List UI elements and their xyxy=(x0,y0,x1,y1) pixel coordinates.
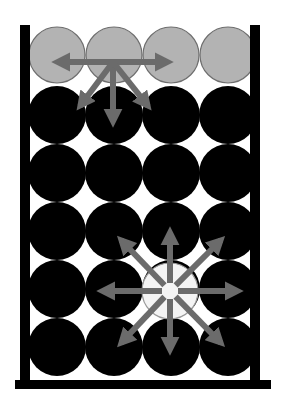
bulk-particle xyxy=(142,86,200,144)
bulk-particle xyxy=(28,144,86,202)
surface-particle xyxy=(29,27,85,83)
surface-particles xyxy=(29,27,256,83)
right-wall xyxy=(250,25,260,389)
bulk-particle xyxy=(85,144,143,202)
bulk-particles xyxy=(28,86,257,376)
left-wall xyxy=(20,25,30,389)
particle-container-diagram xyxy=(0,0,283,414)
floor xyxy=(15,380,271,389)
bulk-particle xyxy=(199,86,257,144)
bulk-particle xyxy=(28,86,86,144)
bulk-particle xyxy=(28,318,86,376)
diagram-canvas xyxy=(0,0,283,414)
bulk-particle xyxy=(28,202,86,260)
bulk-particle xyxy=(199,144,257,202)
bulk-particle xyxy=(142,144,200,202)
surface-particle xyxy=(143,27,199,83)
surface-particle xyxy=(200,27,256,83)
bulk-particle xyxy=(28,260,86,318)
